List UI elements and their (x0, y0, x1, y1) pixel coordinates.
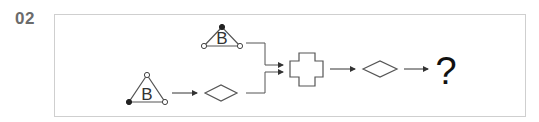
top-triangle-letter: B (216, 29, 227, 48)
top-triangle-right-dot (237, 43, 242, 48)
flow-diagram: B B ? (0, 0, 539, 122)
top-triangle-icon: B (201, 24, 242, 48)
cross-icon (290, 53, 323, 86)
bottom-triangle-right-dot (162, 99, 167, 104)
connector-line-lower (246, 72, 283, 93)
answer-placeholder: ? (435, 50, 456, 92)
bottom-triangle-left-dot (126, 99, 131, 104)
connector-line-upper (246, 43, 283, 65)
bottom-triangle-apex-dot (144, 72, 149, 77)
bottom-triangle-letter: B (141, 85, 152, 104)
bottom-triangle-icon: B (126, 72, 167, 104)
top-triangle-left-dot (201, 43, 206, 48)
diamond-icon (363, 61, 397, 77)
diamond-icon (205, 85, 237, 101)
